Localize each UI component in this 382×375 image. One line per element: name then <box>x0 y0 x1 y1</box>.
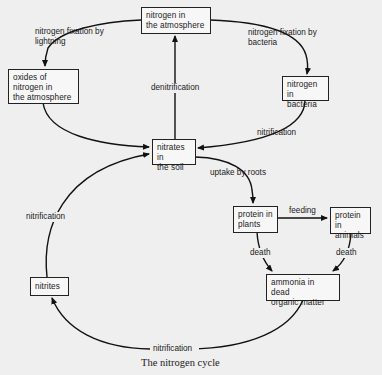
node-nitrogen-atmosphere: nitrogen in the atmosphere <box>141 7 211 34</box>
label-nitrification-left: nitrification <box>26 212 65 222</box>
node-nitrites: nitrites <box>30 277 69 296</box>
node-protein-animals: protein in animals <box>330 207 371 234</box>
label-nitrification-bacteria: nitrification <box>257 128 296 138</box>
label-death-animals: death <box>336 248 357 258</box>
label-nitrification-bottom: nitrification <box>153 344 192 354</box>
arrow-nitrification-bottom <box>52 298 303 349</box>
node-ammonia: ammonia in dead organic matter <box>266 274 340 301</box>
arrow-oxides-nitrates <box>43 103 149 147</box>
label-death-plants: death <box>250 248 271 258</box>
label-denitrification: denitrification <box>150 83 200 93</box>
label-uptake-roots: uptake by roots <box>210 168 266 178</box>
node-protein-plants: protein in plants <box>233 206 278 233</box>
label-fixation-bacteria: nitrogen fixation by bacteria <box>248 28 317 48</box>
arrows-layer <box>0 0 382 375</box>
label-fixation-lightning: nitrogen fixation by lightning <box>35 27 104 47</box>
arrow-uptake-roots <box>195 157 253 203</box>
node-nitrates-soil: nitrates in the soil <box>152 139 196 165</box>
label-feeding: feeding <box>289 206 316 216</box>
node-oxides-nitrogen: oxides of nitrogen in the atmosphere <box>8 69 79 104</box>
node-nitrogen-bacteria: nitrogen in bacteria <box>282 76 329 101</box>
diagram-caption: The nitrogen cycle <box>141 357 220 368</box>
